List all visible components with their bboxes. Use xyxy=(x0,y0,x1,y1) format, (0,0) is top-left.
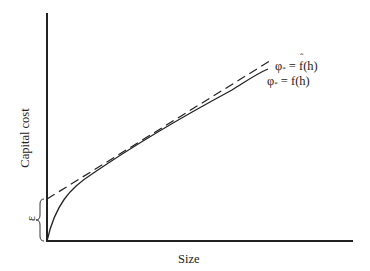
capital-cost-diagram: Capital cost Size ε φ* = f(h) φ* = f(h) xyxy=(0,0,370,271)
y-axis-label: Capital cost xyxy=(18,108,33,167)
actual-cost-curve xyxy=(47,69,268,241)
linear-approximation-dashed-line xyxy=(47,59,273,199)
epsilon-label: ε xyxy=(24,216,39,221)
f-hat-function: f xyxy=(299,59,303,74)
equals-sign: = xyxy=(286,59,299,73)
function-argument: (h) xyxy=(295,74,310,88)
actual-curve-label: φ* = f(h) xyxy=(267,74,310,89)
x-axis-label: Size xyxy=(178,252,200,267)
equals-sign: = xyxy=(278,74,291,88)
approximation-curve-label: φ* = f(h) xyxy=(275,59,318,74)
plot-area xyxy=(0,0,370,271)
function-argument: (h) xyxy=(303,59,318,73)
